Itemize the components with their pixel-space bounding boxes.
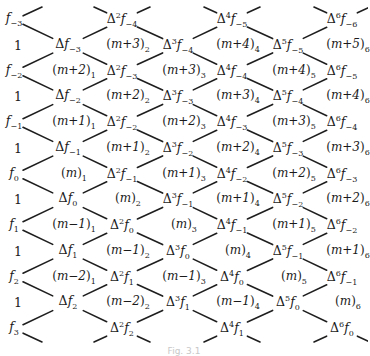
difference-order-3: Δ3f−2 <box>163 140 194 157</box>
delta-symbol: Δ <box>220 320 229 335</box>
lozenge-edge <box>23 105 53 119</box>
binomial-coefficient: (m−2)1 <box>52 270 96 286</box>
binomial-coefficient: (m+2)5 <box>272 167 316 183</box>
difference-order-2: Δ2f−2 <box>107 115 138 132</box>
delta-symbol: Δ <box>327 114 336 129</box>
difference-order-6: Δ6f−1 <box>327 269 358 286</box>
binomial-coefficient: (m+3)5 <box>272 115 316 131</box>
delta-symbol: Δ <box>327 217 336 232</box>
difference-order-6: Δ6f−6 <box>327 12 358 29</box>
lozenge-edge <box>303 285 326 296</box>
delta-symbol: Δ <box>166 294 175 309</box>
binomial-coefficient: (m+2)1 <box>52 64 96 80</box>
lozenge-edge <box>83 182 106 193</box>
binomial-coefficient: (m+3)6 <box>326 141 370 157</box>
lozenge-edge <box>83 233 106 244</box>
lozenge-edge <box>303 79 326 90</box>
lozenge-edge <box>137 104 162 116</box>
first-difference: Δf0 <box>59 192 78 208</box>
lozenge-edge <box>23 76 53 90</box>
difference-order-4: Δ4f−2 <box>217 166 248 183</box>
unit-coefficient: 1 <box>14 297 22 310</box>
delta-symbol: Δ <box>55 87 64 102</box>
delta-symbol: Δ <box>59 293 68 308</box>
lozenge-edge <box>137 156 162 168</box>
difference-order-5: Δ5f−3 <box>273 140 304 157</box>
delta-symbol: Δ <box>273 191 282 206</box>
difference-order-3: Δ3f−3 <box>163 89 194 106</box>
delta-symbol: Δ <box>107 62 116 77</box>
delta-symbol: Δ <box>330 320 339 335</box>
binomial-coefficient: (m+5)6 <box>326 38 370 54</box>
delta-symbol: Δ <box>163 191 172 206</box>
binomial-coefficient: (m+3)2 <box>106 38 150 54</box>
lozenge-edge <box>247 53 272 65</box>
difference-order-5: Δ5f−4 <box>273 89 304 106</box>
lozenge-edge <box>137 310 162 322</box>
difference-order-4: Δ4f0 <box>220 269 244 286</box>
delta-symbol: Δ <box>107 165 116 180</box>
difference-order-3: Δ3f−1 <box>163 192 194 209</box>
difference-order-2: Δ2f0 <box>110 218 134 235</box>
delta-symbol: Δ <box>163 139 172 154</box>
binomial-coefficient: (m)5 <box>281 270 307 286</box>
binomial-coefficient: (m)3 <box>171 218 197 234</box>
lozenge-edge <box>23 179 53 193</box>
delta-symbol: Δ <box>59 190 68 205</box>
difference-order-6: Δ6f−4 <box>327 115 358 132</box>
lozenge-edge <box>193 130 216 141</box>
binomial-coefficient: (m+1)1 <box>52 115 96 131</box>
function-value: f3 <box>9 321 19 337</box>
lozenge-edge <box>83 130 106 141</box>
delta-symbol: Δ <box>327 11 336 26</box>
lozenge-edge <box>23 24 53 38</box>
lozenge-edge <box>193 182 216 193</box>
lozenge-edge <box>204 7 217 13</box>
unit-coefficient: 1 <box>14 246 22 259</box>
binomial-coefficient: (m)4 <box>225 244 251 260</box>
lozenge-edge <box>357 336 368 342</box>
binomial-coefficient: (m+1)5 <box>272 218 316 234</box>
lozenge-edge <box>23 333 42 342</box>
lozenge-edge <box>204 336 217 342</box>
lozenge-edge <box>137 336 150 342</box>
difference-order-3: Δ3f0 <box>166 243 190 260</box>
unit-coefficient: 1 <box>14 143 22 156</box>
lozenge-edge <box>193 79 216 90</box>
delta-symbol: Δ <box>327 62 336 77</box>
lozenge-edge <box>303 233 326 244</box>
difference-order-6: Δ6f0 <box>330 321 354 338</box>
lozenge-edge <box>193 27 216 38</box>
difference-order-5: Δ5f−2 <box>273 192 304 209</box>
delta-symbol: Δ <box>217 217 226 232</box>
delta-symbol: Δ <box>110 217 119 232</box>
delta-symbol: Δ <box>217 114 226 129</box>
difference-order-2: Δ2f−4 <box>107 12 138 29</box>
lozenge-edge <box>23 208 53 222</box>
difference-order-5: Δ5f−1 <box>273 243 304 260</box>
lozenge-edge <box>23 156 53 170</box>
lozenge-edge <box>193 233 216 244</box>
binomial-coefficient: (m+3)3 <box>162 64 206 80</box>
lozenge-edge <box>23 53 53 67</box>
binomial-coefficient: (m)1 <box>61 167 87 183</box>
delta-symbol: Δ <box>217 62 226 77</box>
binomial-coefficient: (m)6 <box>335 295 361 311</box>
lozenge-edge <box>23 7 42 16</box>
binomial-coefficient: (m−2)2 <box>106 295 150 311</box>
lozenge-edge <box>23 259 53 273</box>
binomial-coefficient: (m−1)4 <box>216 295 260 311</box>
lozenge-edge <box>247 207 272 219</box>
delta-symbol: Δ <box>273 36 282 51</box>
lozenge-edge <box>247 259 272 271</box>
lozenge-edge <box>83 285 106 296</box>
difference-order-2: Δ2f1 <box>110 269 134 286</box>
delta-symbol: Δ <box>273 139 282 154</box>
delta-symbol: Δ <box>59 242 68 257</box>
first-difference: Δf1 <box>59 244 78 260</box>
unit-coefficient: 1 <box>14 194 22 207</box>
delta-symbol: Δ <box>55 36 64 51</box>
function-value: f2 <box>9 270 19 286</box>
binomial-coefficient: (m−1)3 <box>162 270 206 286</box>
